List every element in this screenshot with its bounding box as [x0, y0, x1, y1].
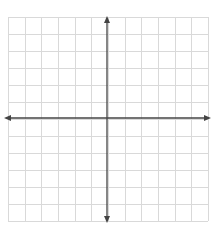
x-axis-left-arrow-icon	[4, 115, 11, 121]
x-axis-right-arrow-icon	[204, 115, 211, 121]
grid-lines	[8, 17, 209, 222]
coordinate-plane	[0, 0, 214, 235]
